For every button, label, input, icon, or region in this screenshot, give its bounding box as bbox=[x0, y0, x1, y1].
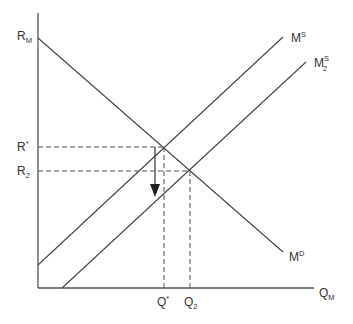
r2-label: R2 bbox=[17, 164, 30, 180]
supply-label: MS bbox=[291, 30, 306, 45]
q2-label: Q2 bbox=[184, 295, 198, 311]
x-axis-label: QM bbox=[319, 286, 335, 302]
demand-label: MD bbox=[289, 249, 305, 264]
y-axis-label: RM bbox=[17, 29, 32, 45]
supply2-label: MS2 bbox=[314, 54, 329, 73]
arrow-down-icon bbox=[150, 184, 160, 197]
supply-curve bbox=[38, 37, 283, 265]
q-star-label: Q* bbox=[157, 294, 169, 309]
supply-curve-2 bbox=[62, 62, 306, 288]
money-market-diagram: RM QM R* R2 Q* Q2 MD MS MS2 bbox=[0, 0, 353, 324]
demand-curve bbox=[38, 38, 283, 252]
r-star-label: R* bbox=[17, 139, 29, 154]
